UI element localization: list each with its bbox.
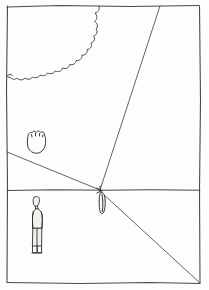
cloud-icon	[8, 6, 100, 80]
frame-left-edge	[7, 6, 8, 282]
distant-figure-group	[99, 192, 105, 213]
frame-right-edge	[200, 6, 201, 283]
upper-right-receding-line	[100, 6, 160, 190]
figure-head	[33, 196, 39, 206]
left-receding-line	[7, 152, 100, 190]
bush-texture-1	[32, 135, 33, 138]
bush-texture-4	[43, 135, 44, 137]
frame-top-edge	[7, 6, 199, 8]
bush-icon	[27, 131, 45, 153]
standing-figure-group	[32, 196, 43, 253]
figure-foot-right	[37, 246, 41, 253]
bush-group	[27, 131, 45, 153]
frame-bottom-edge	[7, 283, 200, 284]
lower-right-receding-line	[102, 193, 200, 283]
cloud-left-tail	[8, 74, 13, 75]
perspective-sketch	[0, 0, 209, 290]
sketch-canvas	[0, 0, 209, 290]
cloud-group	[8, 6, 100, 80]
figure-foot-left	[33, 246, 38, 253]
figure-torso	[33, 209, 43, 229]
horizon-line	[7, 190, 200, 191]
